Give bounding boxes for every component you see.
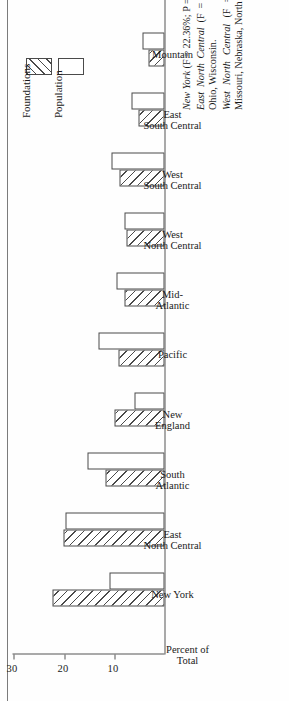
bar-chart: 102030Percent of TotalNew YorkEast North… [1, 0, 173, 655]
bar-population [142, 33, 164, 50]
bar-group: East South Central [9, 93, 165, 127]
chart-plot-area: 102030Percent of TotalNew YorkEast North… [1, 0, 173, 655]
bar-group: West North Central [9, 213, 165, 247]
caption-line: West North Central (F = 7.50%; P = 8.04%… [221, 0, 246, 110]
figure-caption: New York (F = 22.36%; P = 11%).East Nort… [181, 0, 239, 110]
category-label: East North Central [135, 530, 211, 551]
bar-group: New York [9, 573, 165, 607]
bar-population [66, 513, 165, 530]
category-label: South Atlantic [135, 470, 211, 491]
bar-group: South Atlantic [9, 453, 165, 487]
value-axis-tick-label: 30 [7, 663, 18, 674]
category-axis-line [165, 0, 166, 655]
value-axis-tick [14, 655, 15, 660]
category-label: New England [135, 410, 211, 431]
value-axis-tick [114, 655, 115, 660]
value-axis-tick-label: 10 [107, 663, 118, 674]
value-axis-line [13, 654, 165, 655]
category-label: Mid- Atlantic [135, 290, 211, 311]
bar-group: East North Central [9, 513, 165, 547]
bar-population [98, 333, 164, 350]
caption-line: New York (F = 22.36%; P = 11%). [181, 0, 194, 110]
caption-region-name: West North Central [221, 24, 232, 110]
value-axis-tick [64, 655, 65, 660]
caption-region-name: East North Central [195, 27, 206, 110]
bar-population [116, 273, 164, 290]
bar-group: Mid- Atlantic [9, 273, 165, 307]
category-label: Pacific [135, 350, 211, 361]
bar-population [109, 573, 164, 590]
bar-group: New England [9, 393, 165, 427]
category-label: West South Central [135, 170, 211, 191]
caption-region-name: New York [181, 71, 192, 110]
category-label: New York [135, 590, 211, 601]
bar-population [87, 453, 164, 470]
category-label: West North Central [135, 230, 211, 251]
figure-page: Foundations Population 102030Percent of … [0, 0, 289, 701]
bar-group: Mountain [9, 33, 165, 67]
value-axis-tick-label: 20 [57, 663, 68, 674]
bar-population [134, 393, 164, 410]
bar-population [124, 213, 164, 230]
value-axis-title: Percent of Total [158, 644, 218, 666]
bar-population [111, 153, 164, 170]
bar-population [131, 93, 164, 110]
caption-line: East North Central (F = 20.14%; P = 19.6… [195, 0, 220, 110]
bar-group: Pacific [9, 333, 165, 367]
category-label: East South Central [135, 110, 211, 131]
bar-group: West South Central [9, 153, 165, 187]
